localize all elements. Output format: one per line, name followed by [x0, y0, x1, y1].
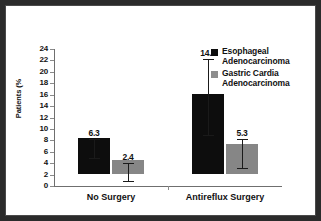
figure-frame: Patients (% 024681012141618202224 6.32.4… [0, 0, 321, 221]
y-axis-tick-mark [50, 175, 54, 176]
error-bar-stem [128, 163, 129, 181]
y-axis-tick: 2 [6, 171, 48, 179]
y-axis-tick: 24 [6, 45, 48, 53]
y-axis-tick-label: 6 [6, 148, 48, 156]
legend-label-esophageal-line2: Adenocarcinoma [222, 57, 316, 67]
y-axis-tick-label: 2 [6, 171, 48, 179]
legend-label-esophageal-line1: Esophageal [222, 46, 269, 56]
x-axis-separator-tick [168, 186, 169, 190]
y-axis-tick-mark [50, 106, 54, 107]
bar-value-label: 6.3 [74, 128, 114, 138]
legend-swatch-icon-esophageal [211, 49, 218, 56]
error-bar-cap-lower [89, 158, 100, 159]
x-axis-label-no-surgery: No Surgery [51, 192, 171, 202]
legend-item-esophageal: Esophageal Adenocarcinoma [211, 47, 316, 66]
y-axis-tick-mark [50, 140, 54, 141]
y-axis-tick: 10 [6, 125, 48, 133]
y-axis-tick-label: 20 [6, 68, 48, 76]
y-axis-tick: 0 [6, 182, 48, 190]
error-bar-stem [208, 59, 209, 135]
y-axis-tick-label: 16 [6, 91, 48, 99]
legend-label-gastric-cardia-line2: Adenocarcinoma [222, 79, 316, 89]
figure-canvas: Patients (% 024681012141618202224 6.32.4… [5, 5, 316, 216]
legend-label-gastric-cardia-line1: Gastric Cardia [222, 68, 279, 78]
y-axis-tick-mark [50, 60, 54, 61]
y-axis-tick: 14 [6, 102, 48, 110]
error-bar-cap-upper [123, 163, 134, 164]
plot-area: Patients (% 024681012141618202224 6.32.4… [6, 6, 315, 215]
y-axis-tick-label: 12 [6, 114, 48, 122]
y-axis-tick-label: 22 [6, 56, 48, 64]
y-axis-tick-mark [50, 152, 54, 153]
y-axis-tick-mark [50, 186, 54, 187]
y-axis-tick-mark [50, 72, 54, 73]
y-axis-tick-label: 10 [6, 125, 48, 133]
y-axis-tick-label: 18 [6, 79, 48, 87]
y-axis-tick: 22 [6, 56, 48, 64]
legend-item-gastric-cardia: Gastric Cardia Adenocarcinoma [211, 69, 316, 88]
y-axis-tick: 16 [6, 91, 48, 99]
error-bar-cap-upper [89, 139, 100, 140]
y-axis-tick-mark [50, 129, 54, 130]
y-axis-tick-label: 24 [6, 45, 48, 53]
x-axis-label-antireflux-surgery: Antireflux Surgery [165, 192, 285, 202]
y-axis-tick-mark [50, 118, 54, 119]
y-axis-tick: 4 [6, 159, 48, 167]
error-bar-cap-lower [237, 168, 248, 169]
y-axis-tick-mark [50, 83, 54, 84]
error-bar-cap-upper [237, 139, 248, 140]
y-axis-tick: 12 [6, 114, 48, 122]
y-axis-tick-mark [50, 95, 54, 96]
y-axis-tick-label: 4 [6, 159, 48, 167]
y-axis-tick-mark [50, 163, 54, 164]
error-bar-stem [94, 139, 95, 158]
y-axis-tick-label: 14 [6, 102, 48, 110]
y-axis-tick-mark [50, 49, 54, 50]
y-axis-tick: 6 [6, 148, 48, 156]
bar-value-label: 2.4 [108, 152, 148, 162]
legend-swatch-icon-gastric-cardia [211, 71, 218, 78]
legend-label-esophageal: Esophageal Adenocarcinoma [222, 47, 316, 66]
y-axis-tick-label: 8 [6, 136, 48, 144]
legend-label-gastric-cardia: Gastric Cardia Adenocarcinoma [222, 69, 316, 88]
y-axis-tick-label: 0 [6, 182, 48, 190]
y-axis-tick: 18 [6, 79, 48, 87]
error-bar-cap-lower [123, 181, 134, 182]
bar-value-label: 5.3 [222, 128, 262, 138]
error-bar-cap-lower [203, 135, 214, 136]
y-axis-tick: 8 [6, 136, 48, 144]
y-axis-line [54, 49, 55, 186]
y-axis-tick: 20 [6, 68, 48, 76]
error-bar-stem [242, 139, 243, 168]
chart-legend: Esophageal Adenocarcinoma Gastric Cardia… [211, 47, 316, 91]
